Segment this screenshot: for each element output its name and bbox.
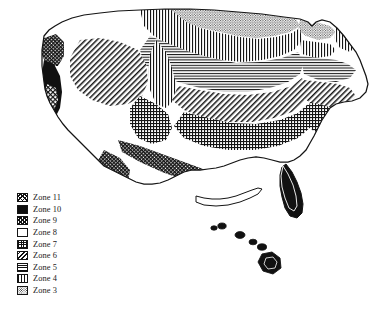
island-niihau — [211, 226, 217, 230]
island-oahu — [235, 232, 245, 239]
island-molokai — [249, 239, 257, 245]
legend-label: Zone 4 — [33, 274, 57, 283]
legend-row: Zone 4 — [17, 273, 95, 285]
legend-label: Zone 5 — [33, 263, 57, 272]
legend-row: Zone 10 — [17, 204, 95, 216]
legend-row: Zone 11 — [17, 192, 95, 204]
legend-row: Zone 6 — [17, 250, 95, 262]
legend-label: Zone 9 — [33, 216, 57, 225]
legend-row: Zone 9 — [17, 215, 95, 227]
legend-row: Zone 5 — [17, 262, 95, 274]
legend-row: Zone 3 — [17, 285, 95, 297]
legend-label: Zone 8 — [33, 228, 57, 237]
swatch-zone-3 — [17, 286, 28, 295]
swatch-zone-11 — [17, 193, 28, 202]
swatch-zone-5 — [17, 263, 28, 272]
swatch-zone-8 — [17, 228, 28, 237]
zone-legend: Zone 11 Zone 10 Zone 9 Zone 8 Zone 7 Zon… — [17, 192, 95, 296]
legend-row: Zone 8 — [17, 227, 95, 239]
legend-label: Zone 11 — [33, 193, 61, 202]
swatch-zone-6 — [17, 251, 28, 260]
legend-label: Zone 10 — [33, 205, 61, 214]
figure-page: Zone 11 Zone 10 Zone 9 Zone 8 Zone 7 Zon… — [0, 0, 372, 318]
swatch-zone-7 — [17, 240, 28, 249]
legend-row: Zone 7 — [17, 238, 95, 250]
legend-label: Zone 7 — [33, 240, 57, 249]
swatch-zone-10 — [17, 205, 28, 214]
swatch-zone-9 — [17, 216, 28, 225]
island-kauai — [218, 223, 226, 229]
legend-label: Zone 3 — [33, 286, 57, 295]
island-maui — [257, 244, 266, 250]
legend-label: Zone 6 — [33, 251, 57, 260]
swatch-zone-4 — [17, 274, 28, 283]
